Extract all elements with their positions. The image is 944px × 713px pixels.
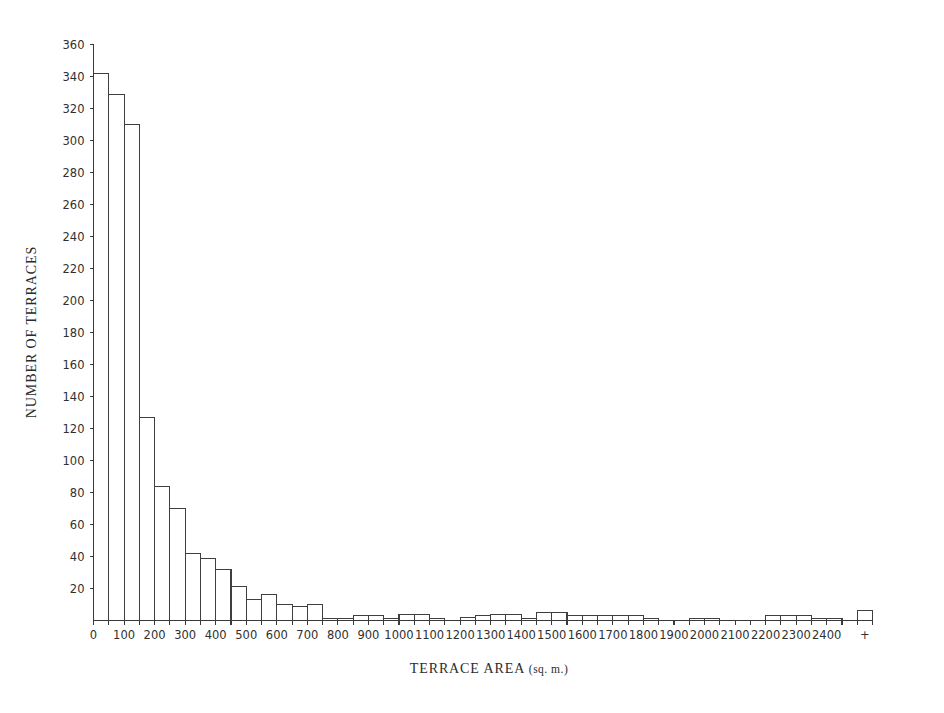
histogram-bar bbox=[552, 613, 567, 621]
x-axis-tick-label: + bbox=[860, 628, 870, 642]
histogram-bar bbox=[796, 616, 811, 621]
x-axis-tick-label: 1300 bbox=[476, 628, 505, 642]
histogram-bar bbox=[155, 486, 170, 620]
x-axis-tick-label: 1200 bbox=[445, 628, 474, 642]
y-axis-tick-label: 60 bbox=[70, 518, 85, 532]
x-axis-tick-label: 200 bbox=[144, 628, 166, 642]
histogram-bar bbox=[475, 616, 490, 621]
histogram-bar bbox=[582, 616, 597, 621]
x-axis-title-unit: (sq. m.) bbox=[529, 663, 568, 676]
x-axis-tick-label: 300 bbox=[174, 628, 196, 642]
x-axis-tick-label: 1800 bbox=[629, 628, 658, 642]
histogram-bar bbox=[124, 125, 139, 621]
x-axis-tick-label: 1100 bbox=[415, 628, 444, 642]
histogram-bar bbox=[598, 616, 613, 621]
y-axis-tick-label: 120 bbox=[63, 422, 85, 436]
y-axis-title: NUMBER OF TERRACES bbox=[24, 246, 39, 418]
histogram-bar bbox=[536, 613, 551, 621]
x-axis-tick-label: 600 bbox=[266, 628, 288, 642]
histogram-bar bbox=[506, 614, 521, 620]
bars-group bbox=[94, 73, 873, 620]
y-axis-tick-label: 200 bbox=[63, 294, 85, 308]
x-axis-tick-label: 1400 bbox=[507, 628, 536, 642]
y-axis-tick-label: 240 bbox=[63, 230, 85, 244]
histogram-bar bbox=[94, 73, 109, 620]
histogram-bar bbox=[231, 587, 246, 621]
x-axis-tick-label: 400 bbox=[205, 628, 227, 642]
x-axis-tick-label: 2000 bbox=[690, 628, 719, 642]
y-axis-tick-label: 300 bbox=[63, 134, 85, 148]
x-axis-tick-label: 1700 bbox=[598, 628, 627, 642]
x-axis-tick-label: 1600 bbox=[568, 628, 597, 642]
histogram-bar bbox=[628, 616, 643, 621]
y-axis-tick-label: 340 bbox=[63, 70, 85, 84]
histogram-bar bbox=[766, 616, 781, 621]
x-axis-tick-label: 700 bbox=[296, 628, 318, 642]
histogram-bar bbox=[399, 614, 414, 620]
histogram-bar bbox=[857, 611, 872, 621]
histogram-bar bbox=[185, 553, 200, 620]
histogram-bar bbox=[781, 616, 796, 621]
y-axis-tick-label: 180 bbox=[63, 326, 85, 340]
x-axis-title-main: TERRACE AREA bbox=[410, 661, 525, 676]
histogram-bar bbox=[567, 616, 582, 621]
y-axis-tick-label: 40 bbox=[70, 550, 85, 564]
histogram-bar bbox=[414, 614, 429, 620]
histogram-bar bbox=[200, 558, 215, 620]
histogram-bar bbox=[277, 605, 292, 621]
y-axis-tick-label: 260 bbox=[63, 198, 85, 212]
x-axis-tick-label: 800 bbox=[327, 628, 349, 642]
histogram-bar bbox=[216, 569, 231, 620]
histogram-bar bbox=[246, 600, 261, 621]
histogram-bar bbox=[353, 616, 368, 621]
y-axis-tick-label: 160 bbox=[63, 358, 85, 372]
x-axis-tick-label: 1500 bbox=[537, 628, 566, 642]
chart-canvas: 2040608010012014016018020022024026028030… bbox=[0, 0, 944, 713]
x-axis-tick-label: 2100 bbox=[720, 628, 749, 642]
histogram-bar bbox=[307, 605, 322, 621]
x-axis-tick-label: 2300 bbox=[782, 628, 811, 642]
histogram-bar bbox=[139, 417, 154, 620]
histogram-bar bbox=[613, 616, 628, 621]
y-axis-tick-label: 80 bbox=[70, 486, 85, 500]
x-axis-tick-label: 1900 bbox=[659, 628, 688, 642]
y-axis-tick-label: 100 bbox=[63, 454, 85, 468]
y-axis-tick-label: 140 bbox=[63, 390, 85, 404]
histogram-bar bbox=[292, 606, 307, 620]
x-axis-ticks-group: 0100200300400500600700800900100011001200… bbox=[90, 621, 873, 642]
x-axis-tick-label: 900 bbox=[357, 628, 379, 642]
histogram-bar bbox=[262, 595, 277, 621]
histogram-bar bbox=[368, 616, 383, 621]
histogram-bar bbox=[491, 614, 506, 620]
y-axis-tick-label: 280 bbox=[63, 166, 85, 180]
x-axis-tick-label: 1000 bbox=[384, 628, 413, 642]
x-axis-tick-label: 500 bbox=[235, 628, 257, 642]
histogram-bar bbox=[170, 509, 185, 621]
x-axis-tick-label: 2400 bbox=[812, 628, 841, 642]
y-axis-tick-label: 320 bbox=[63, 102, 85, 116]
histogram-figure: 2040608010012014016018020022024026028030… bbox=[0, 0, 944, 713]
y-axis-tick-label: 220 bbox=[63, 262, 85, 276]
y-axis-ticks-group: 2040608010012014016018020022024026028030… bbox=[63, 38, 94, 596]
x-axis-tick-label: 100 bbox=[113, 628, 135, 642]
histogram-bar bbox=[109, 94, 124, 620]
y-axis-tick-label: 20 bbox=[70, 582, 85, 596]
y-axis-tick-label: 360 bbox=[63, 38, 85, 52]
x-axis-title: TERRACE AREA (sq. m.) bbox=[410, 661, 569, 676]
x-axis-tick-label: 0 bbox=[90, 628, 97, 642]
x-axis-tick-label: 2200 bbox=[751, 628, 780, 642]
